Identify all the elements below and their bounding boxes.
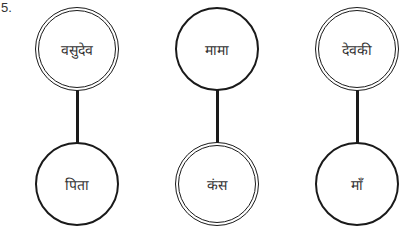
node-label: मामा (205, 40, 229, 59)
connector-line-1 (76, 90, 79, 144)
node-mama: मामा (175, 7, 259, 91)
node-devaki: देवकी (315, 7, 399, 91)
node-pita: पिता (35, 142, 119, 226)
connector-line-3 (356, 90, 359, 144)
node-label: देवकी (342, 40, 372, 59)
node-label: कंस (207, 175, 227, 194)
node-label: पिता (65, 175, 89, 194)
node-maa: माँ (315, 142, 399, 226)
connector-line-2 (216, 90, 219, 144)
node-label: वसुदेव (61, 40, 93, 59)
node-vasudev: वसुदेव (35, 7, 119, 91)
question-number: 5. (1, 0, 12, 15)
node-label: माँ (351, 175, 363, 194)
node-kans: कंस (175, 142, 259, 226)
